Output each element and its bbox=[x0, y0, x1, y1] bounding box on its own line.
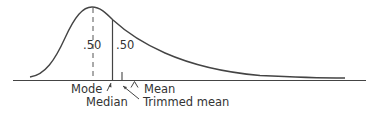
distribution-diagram: .50 .50 Mode Median Mean Trimmed mean bbox=[0, 0, 376, 117]
mode-label: Mode bbox=[71, 82, 102, 96]
distribution-curve bbox=[30, 7, 345, 78]
mean-caret bbox=[131, 82, 138, 88]
right-area-label: .50 bbox=[116, 38, 134, 52]
mean-label: Mean bbox=[144, 82, 175, 96]
trimmed-mean-label: Trimmed mean bbox=[142, 95, 229, 109]
median-label: Median bbox=[86, 95, 128, 109]
left-area-label: .50 bbox=[83, 38, 101, 52]
